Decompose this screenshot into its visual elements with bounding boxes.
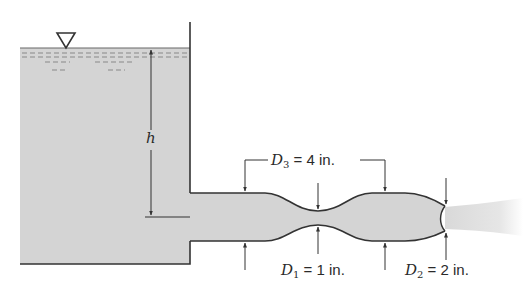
- d2-label: D2 = 2 in.: [405, 262, 469, 280]
- water-jet: [445, 198, 523, 236]
- d1-label: D1 = 1 in.: [281, 262, 345, 280]
- tank-fluid: [20, 48, 445, 264]
- d3-leader-right: [360, 160, 385, 191]
- d3-leader-left: [245, 160, 268, 191]
- d3-label: D3 = 4 in.: [271, 152, 335, 170]
- free-surface-triangle-icon: [57, 33, 75, 48]
- flow-diagram-svg: [0, 0, 523, 292]
- h-label: h: [146, 131, 156, 146]
- diagram: h D3 = 4 in. D1 = 1 in. D2 = 2 in.: [0, 0, 523, 292]
